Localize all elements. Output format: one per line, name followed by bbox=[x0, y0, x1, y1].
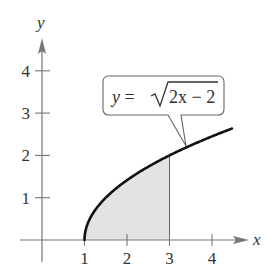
graph-figure: 1234 1234 x y y = 2x − 2 bbox=[0, 0, 268, 280]
function-callout: y = 2x − 2 bbox=[103, 76, 224, 146]
x-tick-label: 3 bbox=[165, 249, 174, 268]
x-axis-label: x bbox=[252, 230, 261, 249]
callout-y-prefix: y = bbox=[110, 87, 135, 107]
x-tick-label: 1 bbox=[80, 249, 89, 268]
callout-radicand: 2x − 2 bbox=[169, 87, 215, 107]
x-tick-label: 4 bbox=[208, 249, 217, 268]
y-tick-label: 1 bbox=[22, 189, 31, 208]
shaded-area bbox=[85, 155, 170, 240]
y-ticks: 1234 bbox=[22, 62, 51, 208]
y-axis-label: y bbox=[35, 13, 45, 32]
x-tick-label: 2 bbox=[123, 249, 132, 268]
y-tick-label: 3 bbox=[22, 104, 31, 123]
y-tick-label: 2 bbox=[22, 146, 31, 165]
y-tick-label: 4 bbox=[22, 62, 31, 81]
